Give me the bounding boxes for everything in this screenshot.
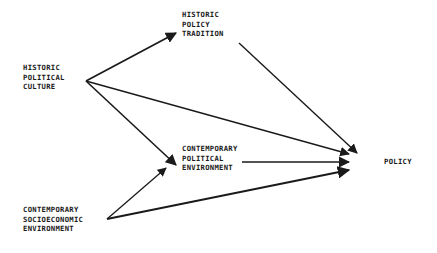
- node-line: CONTEMPORARY: [23, 205, 83, 215]
- node-line: TRADITION: [182, 29, 224, 39]
- node-line: ENVIRONMENT: [23, 224, 83, 234]
- node-line: CONTEMPORARY: [182, 144, 238, 154]
- node-line: CULTURE: [23, 82, 65, 92]
- node-historic-policy-tradition: HISTORIC POLICY TRADITION: [182, 10, 224, 39]
- node-contemporary-political-environment: CONTEMPORARY POLITICAL ENVIRONMENT: [182, 144, 238, 173]
- node-line: HISTORIC: [182, 10, 224, 20]
- node-contemporary-socioeconomic-environment: CONTEMPORARY SOCIOECONOMIC ENVIRONMENT: [23, 205, 83, 234]
- edge-culture-to-tradition: [86, 33, 176, 81]
- edge-tradition-to-policy: [239, 43, 357, 153]
- edge-socioeconomic-to-policy: [107, 170, 349, 219]
- node-line: HISTORIC: [23, 63, 65, 73]
- node-line: POLICY: [384, 157, 412, 167]
- node-line: POLICY: [182, 20, 224, 30]
- edge-socioeconomic-to-political-environment: [107, 168, 166, 219]
- node-line: POLITICAL: [182, 154, 238, 164]
- node-line: ENVIRONMENT: [182, 163, 238, 173]
- node-line: POLITICAL: [23, 73, 65, 83]
- node-historic-political-culture: HISTORIC POLITICAL CULTURE: [23, 63, 65, 92]
- node-line: SOCIOECONOMIC: [23, 215, 83, 225]
- node-policy: POLICY: [384, 157, 412, 167]
